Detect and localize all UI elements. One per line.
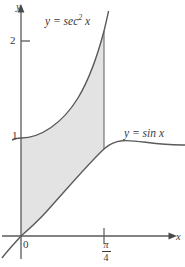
x-axis-label: x	[176, 232, 181, 243]
x-tick-label-pi-over-4: π 4	[99, 240, 113, 263]
y-axis-label: y	[16, 2, 21, 13]
y-tick-label-1: 1	[12, 130, 18, 141]
curve-label-sec-prefix: y = sec	[45, 15, 78, 27]
figure-area-between-curves: y = sec2 x y = sin x y x 2 1 0 π 4	[0, 0, 185, 267]
curve-label-sec-squared: y = sec2 x	[45, 14, 90, 27]
curve-label-sec-exponent: 2	[78, 13, 82, 22]
curve-label-sin-prefix: y = sin	[124, 127, 156, 139]
curve-label-sec-suffix: x	[85, 15, 90, 27]
origin-label: 0	[23, 239, 29, 250]
curve-label-sine: y = sin x	[124, 128, 164, 140]
shaded-area-between-curves	[21, 31, 104, 236]
x-tick-label-numerator: π	[99, 240, 113, 251]
curve-label-sin-suffix: x	[159, 127, 164, 139]
y-tick-label-2: 2	[10, 35, 16, 46]
x-tick-label-denominator: 4	[99, 252, 113, 263]
